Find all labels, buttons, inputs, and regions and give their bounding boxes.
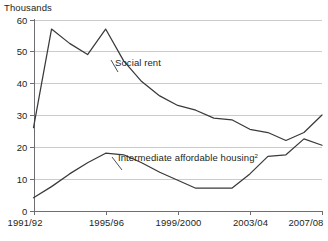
x-axis-tick-marks bbox=[35, 211, 323, 215]
series-label: Intermediate affordable housing2 bbox=[118, 152, 259, 163]
y-axis-tick-label: 60 bbox=[17, 15, 28, 26]
series-lines-group bbox=[34, 29, 323, 198]
x-axis-tick-label: 1999/2000 bbox=[156, 217, 202, 228]
x-axis-tick-label: 2007/08 bbox=[288, 217, 323, 228]
chart-container: Thousands 0102030405060 1991/921995/9619… bbox=[0, 0, 328, 241]
y-axis-labels: 0102030405060 bbox=[17, 15, 28, 217]
series-label-text: Intermediate affordable housing bbox=[118, 152, 255, 163]
y-axis-tick-label: 20 bbox=[17, 142, 28, 153]
x-axis-tick-label: 2003/04 bbox=[233, 217, 268, 228]
x-axis-tick-label: 1995/96 bbox=[89, 217, 124, 228]
x-axis-tick-label: 1991/92 bbox=[8, 217, 43, 228]
y-axis-tick-label: 50 bbox=[17, 46, 28, 57]
series-label-footnote-marker: 2 bbox=[255, 152, 259, 159]
y-axis-tick-label: 30 bbox=[17, 110, 28, 121]
x-axis-labels: 1991/921995/961999/20002003/042007/08 bbox=[8, 217, 324, 228]
y-axis-tick-label: 40 bbox=[17, 78, 28, 89]
series-label-text: Social rent bbox=[115, 57, 161, 68]
y-axis-tick-marks bbox=[30, 21, 34, 212]
y-axis-tick-label: 10 bbox=[17, 174, 28, 185]
y-axis-tick-label: 0 bbox=[22, 206, 27, 217]
series-annotations-group: Social rentIntermediate affordable housi… bbox=[111, 57, 259, 170]
series-label: Social rent bbox=[115, 57, 161, 68]
line-chart-plot: 0102030405060 1991/921995/961999/2000200… bbox=[0, 0, 328, 241]
series-line bbox=[34, 29, 323, 140]
